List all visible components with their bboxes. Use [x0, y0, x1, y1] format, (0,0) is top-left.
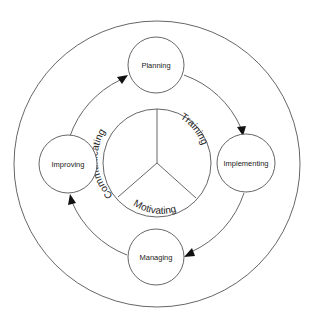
node-planning: Planning [128, 37, 184, 93]
node-planning-label: Planning [141, 61, 170, 70]
node-improving-label: Improving [52, 160, 85, 169]
node-managing-label: Managing [140, 253, 173, 262]
arrowhead-managing [184, 248, 195, 257]
divider-right [157, 163, 196, 198]
node-managing: Managing [128, 229, 184, 285]
cycle-diagram: Communicating Training Motivating Planni… [0, 0, 311, 324]
arrowhead-improving [68, 194, 76, 205]
arrow-implementing-to-managing [191, 193, 244, 252]
node-implementing: Implementing [217, 134, 275, 192]
arrowhead-planning [117, 75, 128, 84]
node-improving: Improving [39, 135, 97, 193]
segment-training: Training [179, 110, 210, 146]
node-implementing-label: Implementing [223, 159, 268, 168]
center-pie: Communicating Training Motivating [88, 109, 211, 217]
segment-motivating: Motivating [132, 197, 177, 216]
arrow-improving-to-planning [70, 80, 120, 136]
arrow-managing-to-improving [72, 202, 127, 255]
divider-left [118, 163, 157, 197]
